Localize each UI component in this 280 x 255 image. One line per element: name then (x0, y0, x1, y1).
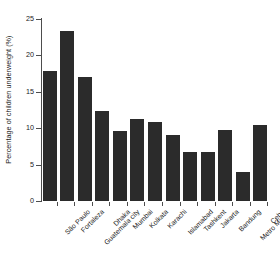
bar (253, 125, 267, 201)
y-axis-tick-label: 20 (16, 51, 34, 59)
y-axis-tick-label-text: 20 (16, 51, 34, 58)
bar (148, 122, 162, 201)
bar (236, 172, 250, 201)
bar (130, 119, 144, 201)
x-axis-category-label: Bandung (237, 208, 262, 233)
x-axis-tick (57, 202, 58, 206)
x-axis-tick (92, 202, 93, 206)
y-axis-title-text: Percentage of children underweight (%) (5, 36, 12, 164)
bar (166, 135, 180, 201)
y-axis-tick-label-text: 5 (16, 161, 34, 168)
y-axis-tick-label-text: 0 (16, 197, 34, 204)
y-axis-tick-label: 0 (16, 197, 34, 205)
x-axis-tick (267, 202, 268, 206)
x-axis-category-label: Karachi (166, 208, 188, 230)
x-axis-tick (232, 202, 233, 206)
x-axis-tick (127, 202, 128, 206)
y-axis-tick-label: 10 (16, 124, 34, 132)
y-axis-title: Percentage of children underweight (%) (0, 0, 18, 200)
x-axis-tick (197, 202, 198, 206)
y-axis-tick-label-text: 10 (16, 124, 34, 131)
x-axis-tick (215, 202, 216, 206)
x-axis-tick (162, 202, 163, 206)
y-axis-tick-label-text: 15 (16, 88, 34, 95)
bar (218, 130, 232, 201)
x-axis-tick (180, 202, 181, 206)
y-axis-tick-label: 15 (16, 88, 34, 96)
bar (95, 111, 109, 201)
plot-area (41, 19, 269, 201)
y-axis-tick-label: 25 (16, 15, 34, 23)
bar (78, 77, 92, 201)
x-axis-tick (144, 202, 145, 206)
x-axis-tick (109, 202, 110, 206)
y-axis-tick-label: 5 (16, 161, 34, 169)
x-axis-tick (74, 202, 75, 206)
y-axis-tick (36, 201, 42, 202)
bar (183, 152, 197, 201)
x-axis-tick (250, 202, 251, 206)
bar (43, 71, 57, 201)
bar (201, 152, 215, 202)
y-axis-tick-label-text: 25 (16, 15, 34, 22)
bar (113, 131, 127, 201)
bar-chart-figure: Percentage of children underweight (%) 0… (0, 0, 280, 255)
bar (60, 31, 74, 201)
